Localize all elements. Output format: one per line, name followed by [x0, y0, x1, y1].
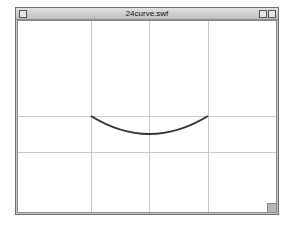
resize-grip-icon[interactable]: [267, 203, 276, 212]
zoom-box-icon[interactable]: [259, 10, 267, 18]
quadratic-curve: [91, 116, 208, 134]
flash-player-window: 24curve.swf: [15, 7, 279, 215]
collapse-box-icon[interactable]: [268, 10, 276, 18]
title-bar[interactable]: 24curve.swf: [16, 8, 278, 20]
swf-stage: [17, 20, 277, 213]
curve-canvas: [18, 21, 276, 212]
window-title: 24curve.swf: [16, 8, 278, 19]
